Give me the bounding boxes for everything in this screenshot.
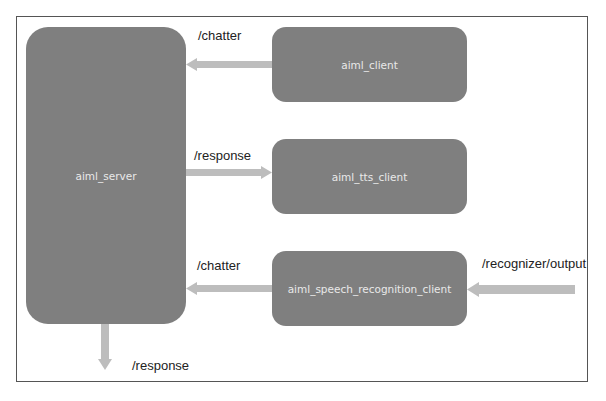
edge-label-recognizer-output: /recognizer/output [482,256,586,271]
arrow-right-icon [186,166,272,179]
node-label: aiml_tts_client [332,171,408,183]
arrow-left-icon [186,58,272,71]
edge-label-chatter-speech: /chatter [197,258,240,273]
node-aiml-speech-recognition-client: aiml_speech_recognition_client [272,251,467,326]
edge-label-response-tts: /response [194,148,251,163]
node-aiml-tts-client: aiml_tts_client [272,139,467,214]
node-aiml-server: aiml_server [26,27,186,324]
node-label: aiml_speech_recognition_client [288,283,452,295]
arrow-left-icon [186,282,272,295]
node-label: aiml_server [76,170,137,182]
edge-label-chatter-top: /chatter [198,28,241,43]
edge-label-response-out: /response [132,358,189,373]
node-label: aiml_client [341,59,398,71]
node-aiml-client: aiml_client [272,27,467,102]
arrow-left-icon [467,282,575,297]
arrow-down-icon [98,324,112,370]
